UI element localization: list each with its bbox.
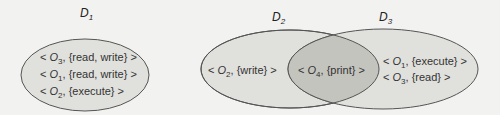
domain-diagram: D1 D2 D3 < O3, {read, write} > < O1, {re… [0,0,500,115]
domain-label-d2: D2 [272,10,286,26]
domain-label-d1: D1 [80,6,93,22]
domain-label-d3: D3 [379,10,393,26]
